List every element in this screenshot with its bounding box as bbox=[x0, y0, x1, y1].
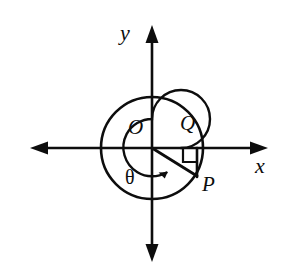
angle-theta-label: θ bbox=[125, 167, 135, 187]
y-axis-arrow-up bbox=[146, 25, 159, 43]
point-Q-label: Q bbox=[180, 113, 195, 134]
y-axis-arrow-down bbox=[146, 244, 159, 262]
origin-label: O bbox=[128, 117, 143, 138]
point-P-label: P bbox=[202, 174, 215, 195]
x-axis-arrow-left bbox=[30, 142, 48, 155]
x-axis-label: x bbox=[255, 155, 265, 177]
geometry-diagram bbox=[0, 0, 287, 278]
y-axis-label: y bbox=[120, 22, 130, 44]
right-angle-mark-icon bbox=[183, 148, 197, 162]
figure-root: y x O Q P θ bbox=[0, 0, 287, 278]
